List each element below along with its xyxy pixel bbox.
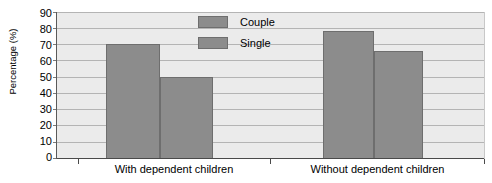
bar-chart: Percentage (%) 90 80 70 60 50 40 30 20 1…: [0, 0, 492, 183]
y-tick-label: 80: [22, 24, 52, 35]
y-tick-label: 40: [22, 88, 52, 99]
x-axis-line: [57, 158, 485, 159]
legend-label: Couple: [240, 16, 275, 28]
y-axis-title: Percentage (%): [7, 26, 18, 98]
legend-swatch-icon: [198, 16, 228, 28]
legend-item-couple: Couple: [198, 12, 328, 31]
bar-couple-without-dependent-children: [323, 31, 374, 158]
y-tick-label: 30: [22, 104, 52, 115]
y-tick-label: 0: [22, 152, 52, 163]
y-tick-label: 90: [22, 8, 52, 19]
x-axis-tick: [484, 159, 485, 164]
x-axis-category-label-2: Without dependent children: [271, 163, 484, 175]
y-tick-label: 50: [22, 72, 52, 83]
y-tick-label: 10: [22, 136, 52, 147]
bar-single-with-dependent-children: [160, 77, 213, 158]
y-axis-line: [56, 12, 57, 159]
y-tick-label: 70: [22, 40, 52, 51]
legend-item-single: Single: [198, 33, 328, 52]
legend-label: Single: [240, 37, 271, 49]
y-tick-label: 60: [22, 56, 52, 67]
plot-right-border: [484, 12, 485, 159]
y-axis-tick-labels: 90 80 70 60 50 40 30 20 10 0: [22, 0, 52, 183]
y-tick-label: 20: [22, 120, 52, 131]
x-axis-category-label-1: With dependent children: [79, 163, 269, 175]
legend: Couple Single: [198, 12, 328, 54]
legend-swatch-icon: [198, 37, 228, 49]
bar-single-without-dependent-children: [374, 51, 423, 158]
bar-couple-with-dependent-children: [106, 44, 160, 158]
